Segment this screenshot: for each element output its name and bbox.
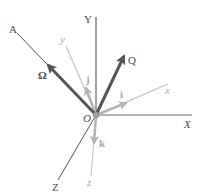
Z-axis-label: Z [52, 182, 59, 193]
Y-axis-label: Y [84, 14, 92, 25]
A-axis-label: A [9, 24, 17, 35]
Z-axis-line [58, 115, 96, 180]
omega-label: Ω [38, 70, 47, 81]
Q-label: Q [128, 55, 136, 66]
x-axis-label: x [165, 85, 170, 96]
i-label: i [120, 89, 123, 100]
origin-label: O [83, 113, 91, 124]
X-axis-label: X [184, 119, 191, 130]
diagram-canvas [0, 0, 203, 196]
j-label: j [86, 74, 90, 85]
k-vector [94, 115, 96, 143]
origin-dot [93, 112, 99, 118]
z-axis-label: z [87, 177, 91, 188]
rotating-frame-diagram: Y X Z A y x z i j k Ω Q O [0, 0, 203, 196]
y-axis-label: y [60, 34, 65, 45]
k-label: k [99, 138, 105, 149]
